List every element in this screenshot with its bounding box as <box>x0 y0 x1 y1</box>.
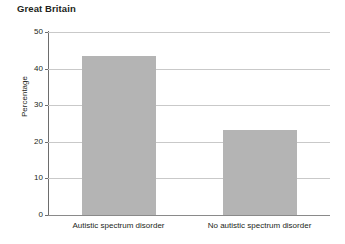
y-axis-tick-label: 40 <box>2 65 43 73</box>
bar-chart: Great Britain Percentage 01020304050 Aut… <box>0 0 345 244</box>
bar <box>82 56 156 215</box>
y-axis-tick-label: 10 <box>2 174 43 182</box>
gridline <box>48 215 330 216</box>
y-axis-tick-mark <box>45 215 48 216</box>
y-axis-tick-label: 30 <box>2 101 43 109</box>
bar <box>223 130 297 215</box>
x-axis-tick-label: No autistic spectrum disorder <box>170 221 345 231</box>
gridline <box>48 32 330 33</box>
y-axis-tick-mark <box>45 69 48 70</box>
y-axis-tick-label: 50 <box>2 28 43 36</box>
plot-area <box>48 32 330 215</box>
y-axis-tick-label: 20 <box>2 138 43 146</box>
y-axis-tick-mark <box>45 178 48 179</box>
y-axis-tick-mark <box>45 105 48 106</box>
y-axis-tick-mark <box>45 142 48 143</box>
y-axis-tick-mark <box>45 32 48 33</box>
y-axis-tick-label: 0 <box>2 211 43 219</box>
